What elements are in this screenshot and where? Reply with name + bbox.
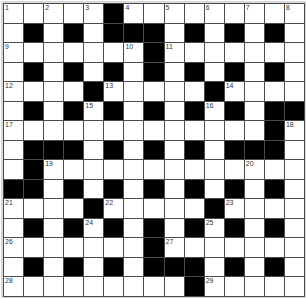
answer-cell[interactable] [84,121,103,140]
answer-cell[interactable] [265,238,284,257]
answer-cell[interactable] [245,43,264,62]
answer-cell[interactable] [165,199,184,218]
answer-cell[interactable] [124,141,143,160]
answer-cell[interactable] [124,63,143,82]
answer-cell[interactable] [285,160,304,179]
answer-cell[interactable] [104,238,123,257]
answer-cell[interactable] [245,121,264,140]
answer-cell[interactable] [84,277,103,296]
answer-cell[interactable] [24,43,43,62]
answer-cell[interactable] [245,24,264,43]
answer-cell[interactable] [4,258,23,277]
answer-cell[interactable] [124,258,143,277]
answer-cell[interactable] [84,258,103,277]
answer-cell[interactable]: 12 [4,82,23,101]
answer-cell[interactable] [24,82,43,101]
answer-cell[interactable] [285,141,304,160]
answer-cell[interactable] [44,258,63,277]
answer-cell[interactable] [165,141,184,160]
answer-cell[interactable]: 17 [4,121,23,140]
answer-cell[interactable] [265,4,284,23]
answer-cell[interactable] [4,102,23,121]
answer-cell[interactable]: 20 [245,160,264,179]
answer-cell[interactable]: 9 [4,43,23,62]
answer-cell[interactable]: 6 [205,4,224,23]
answer-cell[interactable] [24,4,43,23]
answer-cell[interactable] [205,258,224,277]
answer-cell[interactable] [64,82,83,101]
answer-cell[interactable] [245,180,264,199]
answer-cell[interactable] [124,82,143,101]
answer-cell[interactable] [225,238,244,257]
answer-cell[interactable] [185,199,204,218]
answer-cell[interactable] [285,180,304,199]
answer-cell[interactable] [285,277,304,296]
answer-cell[interactable] [84,141,103,160]
answer-cell[interactable] [44,277,63,296]
answer-cell[interactable] [185,4,204,23]
answer-cell[interactable] [165,82,184,101]
answer-cell[interactable] [64,43,83,62]
answer-cell[interactable] [185,43,204,62]
answer-cell[interactable] [64,277,83,296]
answer-cell[interactable]: 5 [165,4,184,23]
answer-cell[interactable]: 4 [124,4,143,23]
answer-cell[interactable] [165,180,184,199]
answer-cell[interactable] [225,121,244,140]
answer-cell[interactable] [44,199,63,218]
answer-cell[interactable] [64,4,83,23]
answer-cell[interactable] [205,24,224,43]
answer-cell[interactable] [104,121,123,140]
answer-cell[interactable]: 24 [84,219,103,238]
answer-cell[interactable] [185,82,204,101]
answer-cell[interactable] [84,180,103,199]
answer-cell[interactable]: 29 [205,277,224,296]
answer-cell[interactable] [104,43,123,62]
answer-cell[interactable] [64,160,83,179]
answer-cell[interactable] [205,238,224,257]
answer-cell[interactable] [285,238,304,257]
answer-cell[interactable] [144,4,163,23]
answer-cell[interactable] [265,82,284,101]
answer-cell[interactable]: 23 [225,199,244,218]
answer-cell[interactable]: 18 [285,121,304,140]
answer-cell[interactable]: 2 [44,4,63,23]
answer-cell[interactable] [44,24,63,43]
answer-cell[interactable]: 27 [165,238,184,257]
answer-cell[interactable] [245,277,264,296]
answer-cell[interactable] [245,258,264,277]
answer-cell[interactable] [144,121,163,140]
answer-cell[interactable] [245,199,264,218]
answer-cell[interactable] [24,121,43,140]
answer-cell[interactable]: 16 [205,102,224,121]
answer-cell[interactable]: 14 [225,82,244,101]
answer-cell[interactable] [185,238,204,257]
answer-cell[interactable] [285,43,304,62]
answer-cell[interactable] [245,82,264,101]
answer-cell[interactable] [165,63,184,82]
answer-cell[interactable] [265,160,284,179]
answer-cell[interactable] [285,63,304,82]
answer-cell[interactable] [165,277,184,296]
answer-cell[interactable]: 26 [4,238,23,257]
answer-cell[interactable] [285,24,304,43]
answer-cell[interactable]: 21 [4,199,23,218]
answer-cell[interactable] [124,219,143,238]
answer-cell[interactable]: 11 [165,43,184,62]
answer-cell[interactable] [165,160,184,179]
answer-cell[interactable] [124,277,143,296]
answer-cell[interactable] [104,277,123,296]
answer-cell[interactable] [124,102,143,121]
answer-cell[interactable] [245,238,264,257]
answer-cell[interactable] [205,180,224,199]
answer-cell[interactable] [124,160,143,179]
answer-cell[interactable] [124,180,143,199]
answer-cell[interactable] [285,219,304,238]
answer-cell[interactable] [44,43,63,62]
answer-cell[interactable] [225,277,244,296]
answer-cell[interactable] [44,219,63,238]
answer-cell[interactable] [144,199,163,218]
answer-cell[interactable] [44,180,63,199]
answer-cell[interactable] [124,238,143,257]
answer-cell[interactable] [165,24,184,43]
